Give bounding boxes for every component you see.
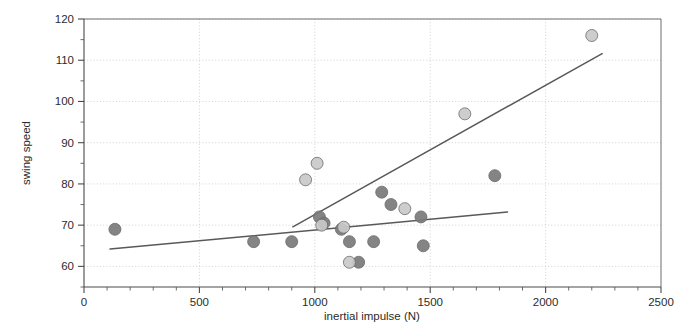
data-point bbox=[368, 236, 380, 248]
data-point bbox=[343, 236, 355, 248]
data-point bbox=[399, 203, 411, 215]
x-tick-label: 500 bbox=[190, 296, 209, 308]
chart-canvas: 60708090100110120 swing speed 0500100015… bbox=[0, 0, 696, 336]
data-point bbox=[248, 236, 260, 248]
data-points bbox=[109, 29, 598, 268]
y-tick-label: 120 bbox=[55, 13, 74, 25]
trend-line-steep-trend bbox=[293, 54, 602, 227]
x-axis-tick-labels: 05001000150020002500 bbox=[81, 296, 674, 308]
y-axis-ticks bbox=[78, 19, 84, 287]
y-axis-title: swing speed bbox=[20, 121, 32, 185]
data-point bbox=[316, 219, 328, 231]
y-tick-label: 70 bbox=[61, 219, 74, 231]
data-point bbox=[376, 186, 388, 198]
x-tick-label: 1500 bbox=[417, 296, 443, 308]
y-tick-label: 110 bbox=[56, 54, 74, 66]
data-point bbox=[300, 174, 312, 186]
scatter-chart: 60708090100110120 swing speed 0500100015… bbox=[0, 0, 696, 336]
x-tick-label: 2000 bbox=[533, 296, 559, 308]
x-axis-ticks bbox=[84, 287, 661, 293]
y-tick-label: 90 bbox=[61, 137, 74, 149]
data-point bbox=[417, 240, 429, 252]
y-axis-tick-labels: 60708090100110120 bbox=[55, 13, 74, 272]
data-point bbox=[459, 108, 471, 120]
data-point bbox=[586, 29, 598, 41]
data-point bbox=[385, 199, 397, 211]
data-point bbox=[311, 157, 323, 169]
data-point bbox=[343, 256, 355, 268]
x-axis: 05001000150020002500 inertial impulse (N… bbox=[81, 287, 674, 322]
data-point bbox=[338, 221, 350, 233]
x-tick-label: 0 bbox=[81, 296, 87, 308]
data-point bbox=[286, 236, 298, 248]
data-point bbox=[109, 223, 121, 235]
x-tick-label: 1000 bbox=[302, 296, 328, 308]
y-axis: 60708090100110120 swing speed bbox=[20, 13, 84, 287]
data-point bbox=[415, 211, 427, 223]
y-tick-label: 60 bbox=[61, 260, 74, 272]
trend-lines bbox=[110, 54, 602, 249]
y-tick-label: 80 bbox=[61, 178, 74, 190]
x-tick-label: 2500 bbox=[648, 296, 674, 308]
data-point bbox=[489, 170, 501, 182]
y-tick-label: 100 bbox=[55, 95, 74, 107]
x-axis-title: inertial impulse (N) bbox=[324, 310, 420, 322]
